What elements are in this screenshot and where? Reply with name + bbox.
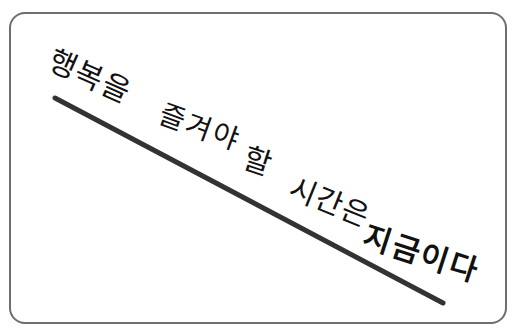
calligraphy-card: 행복을 즐겨야 할 시간은 지금이다	[0, 0, 515, 332]
